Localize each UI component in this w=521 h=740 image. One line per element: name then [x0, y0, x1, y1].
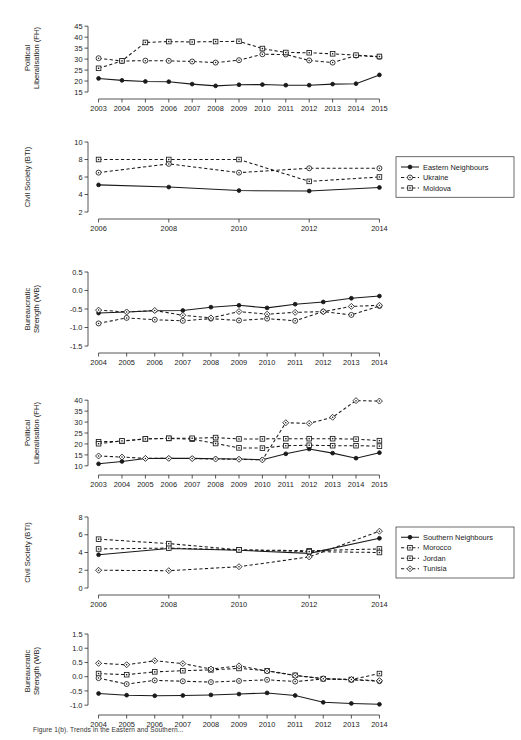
series-marker-ukraine — [208, 316, 213, 321]
series-marker-southern-neighbours — [307, 551, 311, 555]
series-marker-morocco — [96, 671, 101, 676]
series-marker-jordan — [307, 436, 312, 441]
series-marker-southern-neighbours — [331, 451, 335, 455]
series-marker-moldova — [236, 309, 242, 315]
x-tick-label: 2011 — [278, 104, 294, 113]
series-marker-ukraine — [237, 170, 242, 175]
x-tick-label: 2006 — [90, 224, 106, 233]
series-marker-moldova — [260, 46, 265, 51]
series-marker-morocco — [377, 671, 382, 676]
series-marker-ukraine — [96, 170, 101, 175]
y-tick-label: 40 — [74, 396, 82, 405]
figure-container: 1520253035404520032004200520062007200820… — [0, 0, 521, 740]
x-tick-label: 2005 — [118, 358, 134, 367]
x-tick-label: 2010 — [259, 358, 275, 367]
series-marker-eastern-neighbours — [167, 80, 171, 84]
series-marker-southern-neighbours — [321, 700, 325, 704]
x-tick-label: 2009 — [231, 720, 247, 729]
series-line-ukraine — [99, 164, 380, 173]
x-tick-label: 2012 — [301, 224, 317, 233]
series-line-moldova — [99, 41, 380, 68]
series-marker-southern-neighbours — [190, 456, 194, 460]
y-tick-label: 6 — [78, 173, 82, 182]
series-marker-moldova — [284, 50, 289, 55]
series-marker-jordan — [96, 441, 101, 446]
x-tick-label: 2009 — [231, 480, 247, 489]
series-marker-moldova — [376, 302, 382, 308]
series-marker-morocco — [321, 676, 326, 681]
series-marker-ukraine — [377, 166, 382, 171]
series-marker-tunisia — [292, 673, 298, 679]
series-marker-southern-neighbours — [97, 462, 101, 466]
series-line-morocco — [99, 548, 380, 551]
series-marker-morocco — [307, 548, 312, 553]
x-tick-label: 2003 — [90, 104, 106, 113]
series-marker-morocco — [166, 546, 171, 551]
series-marker-jordan — [213, 435, 218, 440]
y-tick-label: 15 — [74, 451, 82, 460]
series-line-moldova — [99, 160, 380, 182]
series-marker-tunisia — [142, 455, 148, 461]
chart-panel-east-civil: 24681020062008201020122014Civil Society … — [0, 0, 521, 740]
series-marker-jordan — [377, 438, 382, 443]
series-marker-moldova — [166, 157, 171, 162]
series-marker-morocco — [330, 443, 335, 448]
series-marker-southern-neighbours — [237, 548, 241, 552]
series-marker-jordan — [152, 678, 157, 683]
x-tick-label: 2004 — [114, 104, 130, 113]
series-marker-ukraine — [293, 318, 298, 323]
series-marker-moldova — [213, 39, 218, 44]
x-tick-label: 2006 — [161, 480, 177, 489]
series-marker-ukraine — [354, 53, 359, 58]
y-tick-label: 4 — [78, 548, 82, 557]
series-marker-morocco — [293, 673, 298, 678]
x-tick-label: 2012 — [315, 720, 331, 729]
series-marker-morocco — [354, 443, 359, 448]
x-tick-label: 2006 — [161, 104, 177, 113]
series-marker-tunisia — [189, 456, 195, 462]
series-marker-southern-neighbours — [237, 692, 241, 696]
series-marker-moldova — [143, 40, 148, 45]
x-tick-label: 2012 — [301, 600, 317, 609]
series-line-ukraine — [99, 54, 380, 62]
series-marker-jordan — [265, 677, 270, 682]
x-tick-label: 2003 — [90, 480, 106, 489]
y-axis-title: Civil Society (BTI) — [23, 146, 32, 207]
series-marker-eastern-neighbours — [237, 189, 241, 193]
series-line-jordan — [99, 678, 380, 684]
series-marker-southern-neighbours — [349, 702, 353, 706]
x-tick-label: 2010 — [231, 224, 247, 233]
series-marker-moldova — [264, 311, 270, 317]
legend-marker-open-square — [408, 186, 413, 191]
series-line-eastern-neighbours — [99, 75, 380, 86]
x-tick-label: 2013 — [324, 104, 340, 113]
x-tick-label: 2011 — [287, 720, 303, 729]
series-marker-moldova — [237, 39, 242, 44]
series-marker-tunisia — [376, 678, 382, 684]
series-marker-southern-neighbours — [97, 692, 101, 696]
series-marker-moldova — [292, 309, 298, 315]
series-marker-tunisia — [96, 453, 102, 459]
legend-label: Ukraine — [423, 173, 448, 182]
figure-caption: Figure 1(b). Trends in the Eastern and S… — [33, 726, 184, 733]
legend-marker-filled-circle — [408, 535, 412, 539]
series-line-southern-neighbours — [99, 538, 380, 554]
x-tick-label: 2013 — [324, 480, 340, 489]
series-marker-jordan — [260, 437, 265, 442]
series-marker-morocco — [152, 670, 157, 675]
series-marker-morocco — [120, 439, 125, 444]
series-marker-jordan — [143, 437, 148, 442]
series-line-jordan — [99, 438, 380, 444]
series-marker-southern-neighbours — [120, 460, 124, 464]
legend-marker-open-square — [408, 545, 413, 550]
chart-panel-east-political: 1520253035404520032004200520062007200820… — [0, 0, 521, 740]
y-tick-label: 45 — [74, 22, 82, 31]
x-tick-label: 2008 — [161, 224, 177, 233]
series-marker-eastern-neighbours — [331, 82, 335, 86]
x-tick-label: 2014 — [371, 600, 387, 609]
chart-panel-east-bureaucratic: -1.5-1.0-0.50.00.52004200520062007200820… — [0, 0, 521, 740]
series-marker-ukraine — [260, 52, 265, 57]
x-tick-label: 2005 — [137, 104, 153, 113]
series-line-southern-neighbours — [99, 693, 380, 704]
y-tick-label: 35 — [74, 407, 82, 416]
